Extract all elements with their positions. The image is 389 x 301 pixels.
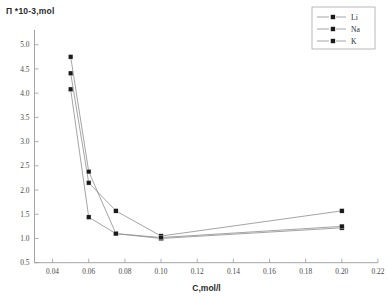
x-tick-label: 0.08: [118, 267, 131, 276]
legend-marker-na: [331, 27, 336, 32]
legend-label-li: Li: [351, 13, 358, 22]
data-point-li: [86, 215, 91, 220]
x-tick-label: 0.12: [191, 267, 204, 276]
x-tick-label: 0.04: [46, 267, 59, 276]
x-tick-label: 0.16: [263, 267, 276, 276]
data-point-na: [68, 71, 73, 76]
y-tick-label: 1.0: [20, 234, 30, 243]
data-point-k: [86, 169, 91, 174]
y-tick-label: 1.5: [20, 210, 30, 219]
y-tick-label: 4.0: [20, 89, 30, 98]
y-tick-label: 4.5: [20, 65, 30, 74]
x-axis-label-wrap: C,mol/l: [0, 283, 389, 293]
data-point-na: [114, 209, 119, 214]
data-point-k: [68, 55, 73, 60]
x-tick-label: 0.14: [227, 267, 240, 276]
y-tick-label: 3.5: [20, 113, 30, 122]
x-tick-label: 0.10: [155, 267, 168, 276]
x-tick-label: 0.06: [82, 267, 95, 276]
legend-label-na: Na: [351, 25, 360, 34]
legend-label-k: K: [351, 37, 357, 46]
y-tick-label: 0.5: [20, 258, 30, 267]
data-point-li: [68, 87, 73, 92]
y-tick-label: 5.0: [20, 40, 30, 49]
legend-marker-li: [331, 15, 336, 20]
x-tick-group: 0.040.060.080.100.120.140.160.180.200.22: [46, 259, 385, 276]
legend-marker-k: [331, 39, 336, 44]
data-point-k: [159, 235, 164, 240]
series-line-na: [71, 73, 342, 236]
y-tick-label: 3.0: [20, 137, 30, 146]
series-group: [68, 55, 344, 241]
legend-box: [312, 7, 375, 49]
data-point-na: [340, 209, 345, 214]
chart-container: П *10-3,mol 0.51.01.52.02.53.03.54.04.55…: [0, 0, 389, 301]
series-line-k: [71, 57, 342, 238]
x-tick-label: 0.22: [372, 267, 385, 276]
data-point-k: [114, 231, 119, 236]
plot-svg: 0.51.01.52.02.53.03.54.04.55.0 0.040.060…: [0, 0, 389, 301]
x-tick-label: 0.20: [335, 267, 348, 276]
x-axis-label: C,mol/l: [192, 283, 220, 293]
x-tick-label: 0.18: [299, 267, 312, 276]
data-point-k: [340, 224, 345, 229]
y-tick-label: 2.0: [20, 186, 30, 195]
series-line-li: [71, 89, 342, 238]
y-tick-label: 2.5: [20, 161, 30, 170]
y-tick-group: 0.51.01.52.02.53.03.54.04.55.0: [20, 40, 38, 267]
data-point-na: [86, 180, 91, 185]
legend: LiNaK: [312, 7, 375, 49]
axes-group: [35, 30, 379, 263]
